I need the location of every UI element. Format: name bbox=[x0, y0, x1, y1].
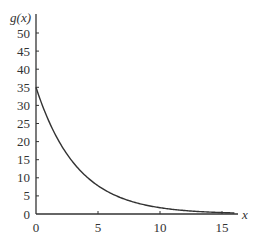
y-tick-label: 50 bbox=[17, 26, 30, 41]
g-of-x-curve bbox=[36, 87, 234, 213]
x-tick-label: 5 bbox=[95, 220, 102, 235]
y-tick-label: 40 bbox=[17, 62, 30, 77]
y-tick-label: 45 bbox=[17, 44, 30, 59]
y-tick-label: 15 bbox=[17, 152, 30, 167]
data-curve bbox=[36, 87, 234, 213]
y-tick-label: 30 bbox=[17, 98, 30, 113]
y-tick-label: 10 bbox=[17, 170, 30, 185]
y-tick-label: 25 bbox=[17, 116, 30, 131]
y-tick-label: 0 bbox=[24, 207, 31, 222]
x-tick-label: 10 bbox=[154, 220, 167, 235]
y-tick-label: 20 bbox=[17, 134, 30, 149]
x-tick-label: 15 bbox=[216, 220, 229, 235]
y-tick-label: 35 bbox=[17, 80, 30, 95]
y-tick-label: 5 bbox=[24, 188, 31, 203]
y-axis-title: g(x) bbox=[10, 10, 31, 25]
exponential-decay-chart: 05101520253035404550051015g(x)x bbox=[0, 0, 259, 248]
x-tick-label: 0 bbox=[33, 220, 40, 235]
x-axis-title: x bbox=[241, 207, 248, 222]
